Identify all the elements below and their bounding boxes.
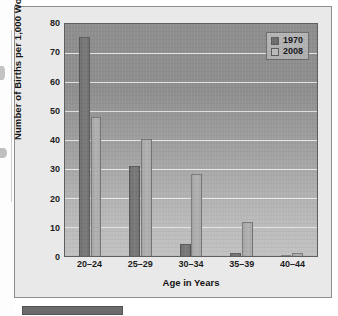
scan-blotch-lower-icon <box>0 148 7 158</box>
chart-legend: 1970 2008 <box>266 32 309 60</box>
y-tick-label: 40 <box>40 136 60 145</box>
chart-figure: Number of Births per 1,000 Women 0 10 20… <box>14 6 332 298</box>
legend-item-1970: 1970 <box>271 36 303 45</box>
y-axis-tick-labels: 0 10 20 30 40 50 60 70 80 <box>38 23 60 257</box>
y-axis-title: Number of Births per 1,000 Women <box>12 0 23 140</box>
y-tick-label: 10 <box>40 223 60 232</box>
legend-swatch-2008-icon <box>271 48 279 56</box>
x-tick-label: 20–24 <box>77 259 102 269</box>
bar-1970-25-29 <box>129 166 140 256</box>
y-tick-label: 30 <box>40 165 60 174</box>
y-tick-label: 0 <box>40 253 60 262</box>
x-axis-tick-labels: 20–2425–2930–3435–3940–44 <box>64 259 318 273</box>
plot-area: 1970 2008 <box>64 23 318 257</box>
legend-label: 1970 <box>283 36 303 45</box>
legend-label: 2008 <box>283 47 303 56</box>
y-tick-label: 20 <box>40 194 60 203</box>
y-tick-label: 80 <box>40 19 60 28</box>
bar-1970-30-34 <box>180 244 191 256</box>
bar-1970-20-24 <box>79 37 90 256</box>
legend-item-2008: 2008 <box>271 47 303 56</box>
x-tick-label: 30–34 <box>178 259 203 269</box>
bar-2008-25-29 <box>141 139 152 256</box>
legend-swatch-1970-icon <box>271 37 279 45</box>
y-tick-label: 70 <box>40 48 60 57</box>
caption-redaction-bar <box>22 306 123 315</box>
y-tick-label: 60 <box>40 77 60 86</box>
bar-2008-35-39 <box>242 222 253 257</box>
bar-2008-30-34 <box>191 174 202 256</box>
x-tick-label: 40–44 <box>280 259 305 269</box>
scan-blotch-upper-icon <box>0 66 5 80</box>
y-tick-label: 50 <box>40 106 60 115</box>
bar-1970-40-44 <box>281 255 292 256</box>
bar-2008-20-24 <box>91 117 102 256</box>
bar-1970-35-39 <box>230 253 241 256</box>
bar-2008-40-44 <box>292 253 303 256</box>
x-axis-title: Age in Years <box>64 277 318 288</box>
x-tick-label: 25–29 <box>128 259 153 269</box>
x-tick-label: 35–39 <box>229 259 254 269</box>
